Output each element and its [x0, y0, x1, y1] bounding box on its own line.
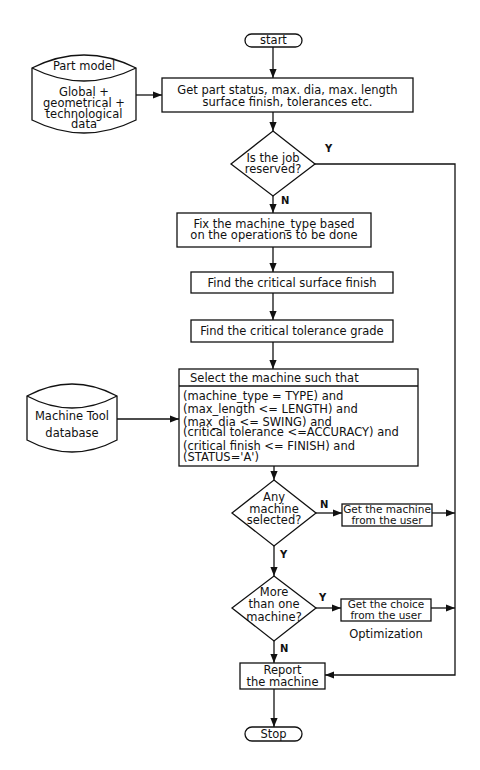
more-than-one-line-3: machine?: [232, 611, 316, 623]
job-reserved-yes-label: Y: [325, 143, 332, 154]
select-machine-header: Select the machine such that: [190, 372, 359, 384]
more-than-one-yes-label: Y: [319, 592, 326, 603]
machine-tool-db-line-1: Machine Tool: [27, 410, 117, 422]
select-condition-2: (max_length <= LENGTH) and: [183, 403, 358, 415]
get-machine-user-line-2: from the user: [342, 515, 432, 526]
get-part-status-line-2: surface finish, tolerances etc.: [162, 96, 413, 108]
select-condition-4: (critical tolerance <=ACCURACY) and: [183, 426, 399, 438]
get-choice-user-line-2: from the user: [341, 610, 431, 621]
more-than-one-line-2: than one: [232, 598, 316, 610]
report-line-2: the machine: [240, 676, 325, 688]
job-reserved-no-label: N: [281, 195, 289, 206]
start-label: start: [245, 34, 302, 46]
part-model-line-4: data: [32, 118, 136, 130]
any-selected-line-3: selected?: [232, 514, 316, 526]
job-reserved-line-2: reserved?: [231, 163, 315, 175]
machine-tool-db-divider: [27, 396, 117, 408]
part-model-title: Part model: [32, 60, 136, 72]
critical-tolerance-label: Find the critical tolerance grade: [191, 325, 393, 337]
more-than-one-no-label: N: [280, 643, 288, 654]
stop-label: Stop: [245, 728, 302, 740]
any-selected-yes-label: Y: [280, 549, 287, 560]
any-selected-no-label: N: [320, 499, 328, 510]
machine-tool-db-line-2: database: [27, 427, 117, 439]
select-condition-1: (machine_type = TYPE) and: [183, 390, 343, 402]
fix-machine-type-line-2: on the operations to be done: [177, 229, 371, 241]
critical-surface-label: Find the critical surface finish: [191, 277, 393, 289]
optimization-caption: Optimization: [341, 628, 431, 640]
select-condition-6: (STATUS='A'): [183, 451, 259, 463]
